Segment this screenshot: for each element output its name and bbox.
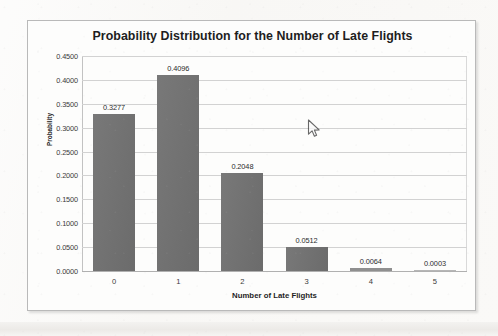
gridline [82, 223, 467, 224]
scanned-page: Probability Distribution for the Number … [0, 0, 498, 336]
scan-edge-strip [0, 322, 498, 336]
gridline [82, 271, 467, 272]
y-axis-tick-label: 0.0000 [34, 267, 78, 276]
bar-data-label: 0.4096 [148, 64, 208, 73]
plot-border-right [466, 56, 467, 271]
bar[interactable] [157, 75, 199, 271]
bar-data-label: 0.3277 [84, 103, 144, 112]
y-axis-tick-label: 0.4000 [34, 76, 78, 85]
y-axis-tick-label: 0.2000 [34, 171, 78, 180]
bar-data-label: 0.0003 [405, 259, 465, 268]
gridline [82, 247, 467, 248]
gridline [82, 175, 467, 176]
x-axis-tick-label: 0 [84, 277, 144, 286]
bar[interactable] [93, 114, 135, 271]
x-axis-tick-label: 1 [148, 277, 208, 286]
chart-title: Probability Distribution for the Number … [28, 29, 477, 43]
x-axis-tick-label: 4 [341, 277, 401, 286]
y-axis-tick-label: 0.3500 [34, 100, 78, 109]
plot-area [82, 56, 467, 271]
chart-container: Probability Distribution for the Number … [27, 20, 476, 311]
bar-data-label: 0.0512 [277, 236, 337, 245]
x-axis-tick-label: 2 [212, 277, 272, 286]
gridline [82, 199, 467, 200]
gridline [82, 152, 467, 153]
gridline [82, 80, 467, 81]
bar[interactable] [286, 247, 328, 272]
x-axis-tick-label: 5 [405, 277, 465, 286]
bar-data-label: 0.2048 [212, 162, 272, 171]
bar[interactable] [221, 173, 263, 271]
gridline [82, 128, 467, 129]
y-axis-tick-label: 0.2500 [34, 148, 78, 157]
y-axis-tick-label: 0.1000 [34, 219, 78, 228]
y-axis-tick-label: 0.4500 [34, 52, 78, 61]
y-axis-title: Probability [46, 100, 53, 160]
bar[interactable] [414, 270, 456, 271]
x-axis-tick-label: 3 [277, 277, 337, 286]
x-axis-title: Number of Late Flights [82, 291, 467, 300]
gridline [82, 56, 467, 57]
y-axis-tick-label: 0.1500 [34, 195, 78, 204]
y-axis-tick-label: 0.3000 [34, 124, 78, 133]
bar-data-label: 0.0064 [341, 257, 401, 266]
y-axis-tick-labels: 0.45000.40000.35000.30000.25000.20000.15… [32, 56, 78, 271]
y-axis-tick-label: 0.0500 [34, 243, 78, 252]
plot-border-left [82, 56, 83, 271]
bar[interactable] [350, 268, 392, 271]
